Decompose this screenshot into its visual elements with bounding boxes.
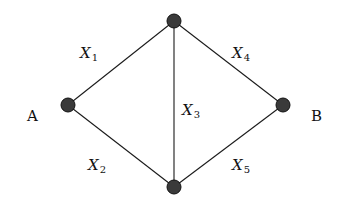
node-d-dot-icon [167, 180, 181, 194]
edges-group [68, 21, 283, 187]
terminal-label-a: A [26, 107, 38, 125]
node-t-dot-icon [167, 14, 181, 28]
node-b-dot-icon [276, 98, 290, 112]
edge-label-e5: X5 [231, 156, 250, 175]
edge-label-e4: X4 [231, 44, 250, 63]
edge-t-b [174, 21, 283, 105]
node-a-dot-icon [61, 98, 75, 112]
terminal-label-b: B [311, 107, 322, 125]
edge-label-e1: X1 [79, 44, 98, 63]
network-diagram: X1X2X3X4X5AB [0, 0, 343, 210]
edge-label-e2: X2 [87, 156, 106, 175]
edge-a-d [68, 105, 174, 187]
edge-a-t [68, 21, 174, 105]
edge-label-e3: X3 [181, 101, 200, 120]
